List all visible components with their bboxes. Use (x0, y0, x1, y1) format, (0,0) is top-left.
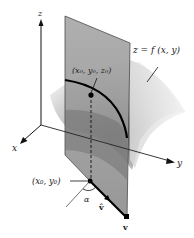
angle-label: α (84, 195, 90, 204)
vector-tip (124, 214, 129, 219)
x-axis-label: x (12, 143, 17, 153)
z-axis (39, 19, 44, 125)
x-axis (20, 125, 41, 144)
point-3d (88, 92, 93, 97)
vector-label: v (122, 222, 128, 232)
diagram-canvas: z x y z = f (x, y) (x₀, y₀, z₀) (x₀, y₀)… (0, 0, 194, 238)
y-axis-label: y (176, 158, 183, 168)
surface-label: z = f (x, y) (132, 45, 181, 55)
angle-arc (83, 187, 96, 191)
arrow-up-icon (39, 19, 44, 26)
arrow-right-icon (166, 158, 175, 164)
z-axis-label: z (37, 9, 43, 18)
point-2d-label: (x₀, y₀) (32, 176, 60, 186)
unit-vector-label: v̂ (98, 202, 104, 212)
point-3d-label: (x₀, y₀, z₀) (72, 66, 111, 75)
